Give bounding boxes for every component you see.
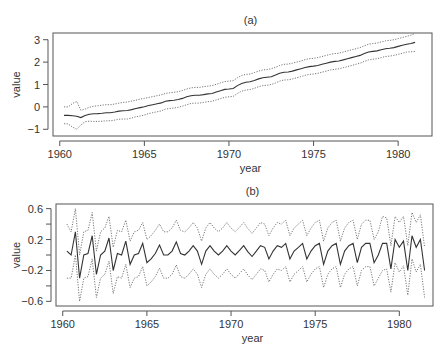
x-axis-a: 19601965197019751980 — [48, 141, 411, 160]
chart-panel-a: (a) −10123 19601965197019751980 year val… — [10, 14, 432, 174]
x-tick-label: 1960 — [50, 318, 74, 330]
y-tick-label: −0.2 — [21, 264, 43, 276]
x-tick-label: 1970 — [217, 148, 241, 160]
y-tick-label: 0 — [34, 101, 40, 113]
series-lower-line — [64, 51, 415, 129]
x-axis-label-a: year — [240, 162, 262, 174]
x-tick-label: 1960 — [48, 148, 72, 160]
series-lines-a — [64, 33, 415, 129]
series-lower-line — [67, 255, 425, 301]
x-tick-label: 1980 — [387, 318, 411, 330]
x-tick-label: 1980 — [386, 148, 410, 160]
y-axis-label-b: value — [10, 242, 22, 268]
x-tick-label: 1970 — [219, 318, 243, 330]
y-tick-label: 2 — [34, 56, 40, 68]
y-tick-label: 1 — [34, 79, 40, 91]
series-lines-b — [67, 209, 425, 302]
x-tick-label: 1975 — [301, 148, 325, 160]
series-estimate-line — [67, 232, 425, 278]
series-estimate-line — [64, 42, 415, 117]
y-tick-label: 0.2 — [28, 234, 43, 246]
chart-title-a: (a) — [244, 14, 257, 26]
x-axis-b: 19601965197019751980 — [50, 311, 411, 330]
x-tick-label: 1965 — [135, 318, 159, 330]
y-axis-label-a: value — [10, 71, 22, 97]
y-tick-label: 0.6 — [28, 203, 43, 215]
figure: (a) −10123 19601965197019751980 year val… — [0, 0, 445, 351]
y-axis-b: 0.60.2−0.2−0.6 — [21, 203, 51, 308]
series-upper-line — [64, 33, 415, 110]
x-axis-label-b: year — [242, 332, 264, 344]
y-tick-label: −1 — [27, 123, 40, 135]
plot-frame-b — [56, 204, 433, 306]
x-tick-label: 1975 — [303, 318, 327, 330]
x-tick-label: 1965 — [132, 148, 156, 160]
y-tick-label: −0.6 — [21, 295, 43, 307]
chart-title-b: (b) — [246, 185, 259, 197]
y-axis-a: −10123 — [27, 34, 48, 136]
y-tick-label: 3 — [34, 34, 40, 46]
chart-panel-b: (b) 0.60.2−0.2−0.6 19601965197019751980 … — [10, 185, 433, 344]
